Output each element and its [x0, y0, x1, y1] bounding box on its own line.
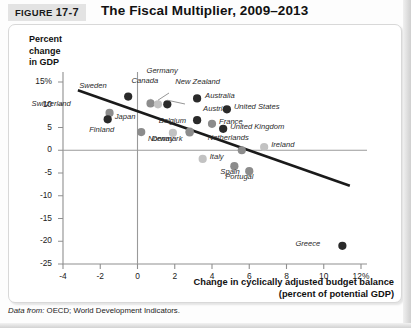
point-label: Ireland [271, 140, 294, 149]
point-label: Austria [203, 104, 227, 113]
y-tick-label: -25 [22, 258, 52, 268]
point-label: Netherlands [208, 133, 249, 142]
figure-tag: FIGURE 17-7 [8, 4, 86, 21]
x-tick-label: 12% [348, 271, 374, 281]
data-point [146, 99, 154, 107]
point-label: New Zealand [175, 77, 220, 86]
data-point [208, 120, 216, 128]
x-tick-label: -2 [87, 271, 113, 281]
point-label: Germany [146, 66, 177, 75]
point-label: United Kingdom [230, 122, 284, 131]
data-point [193, 116, 201, 124]
x-tick-label: -4 [50, 271, 76, 281]
data-point [124, 92, 132, 100]
y-tick-label: -5 [22, 167, 52, 177]
x-tick-label: 4 [199, 271, 225, 281]
x-tick-label: 10 [311, 271, 337, 281]
point-label: Greece [295, 239, 320, 248]
point-label: Canada [132, 76, 159, 85]
data-point [199, 155, 207, 163]
chart-card: Percent change in GDP Change in cyclical… [8, 24, 402, 303]
data-point [186, 128, 194, 136]
page-edge-shadow [403, 0, 411, 328]
source-prefix: Data from: [8, 306, 44, 315]
y-tick-label: 0 [22, 144, 52, 154]
data-point [137, 128, 145, 136]
point-label: Finland [89, 125, 114, 134]
source-text: OECD; World Development Indicators. [47, 306, 180, 315]
data-point [260, 143, 268, 151]
point-label: Italy [210, 152, 224, 161]
point-label: Japan [115, 112, 136, 121]
point-label: Sweden [79, 81, 106, 90]
data-point [193, 94, 201, 102]
page-bottom-shadow [0, 323, 411, 328]
point-label: United States [234, 102, 280, 111]
figure-page: FIGURE 17-7 The Fiscal Multiplier, 2009–… [0, 0, 411, 328]
scatter-plot [9, 25, 401, 302]
y-tick-label: 15% [22, 76, 52, 86]
figure-title: The Fiscal Multiplier, 2009–2013 [101, 3, 308, 18]
data-point [163, 100, 171, 108]
point-label: Switzerland [32, 99, 71, 108]
figure-tag-number: 17-7 [56, 6, 79, 18]
figure-tag-prefix: FIGURE [15, 7, 53, 18]
y-tick-label: -15 [22, 213, 52, 223]
point-label: Belgium [159, 116, 186, 125]
point-label: Australia [205, 91, 235, 100]
x-tick-label: 2 [162, 271, 188, 281]
data-point [338, 242, 346, 250]
x-tick-label: 6 [236, 271, 262, 281]
x-tick-label: 0 [125, 271, 151, 281]
source-note: Data from: OECD; World Development Indic… [8, 306, 180, 315]
point-label: Portugal [225, 172, 253, 181]
x-tick-label: 8 [274, 271, 300, 281]
y-tick-label: -10 [22, 190, 52, 200]
y-tick-label: -20 [22, 235, 52, 245]
y-tick-label: 5 [22, 122, 52, 132]
point-label: Denmark [152, 134, 183, 143]
data-point [219, 125, 227, 133]
data-point [104, 115, 112, 123]
figure-header: FIGURE 17-7 The Fiscal Multiplier, 2009–… [8, 2, 403, 22]
data-point [154, 100, 162, 108]
leader-line [158, 93, 169, 100]
data-point [238, 146, 246, 154]
